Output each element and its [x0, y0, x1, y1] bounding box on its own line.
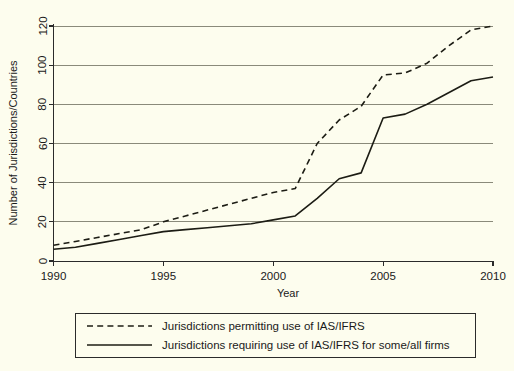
- y-tick-label: 40: [37, 176, 49, 189]
- y-tick-label: 100: [37, 56, 49, 75]
- y-tick-label: 0: [37, 258, 49, 264]
- x-tick-label: 2005: [370, 270, 396, 282]
- x-tick-label: 1990: [41, 270, 67, 282]
- x-tick-label: 1995: [151, 270, 177, 282]
- chart-figure: 020406080100120 19901995200020052010 Yea…: [0, 0, 514, 371]
- x-tick-label: 2010: [480, 270, 506, 282]
- legend-label-permitting: Jurisdictions permitting use of IAS/IFRS: [162, 320, 365, 332]
- x-axis-title: Year: [277, 287, 300, 299]
- y-tick-label: 120: [37, 16, 49, 35]
- y-tick-label: 80: [37, 98, 49, 111]
- x-tick-label: 2000: [260, 270, 286, 282]
- y-tick-label: 20: [37, 215, 49, 228]
- legend-label-requiring: Jurisdictions requiring use of IAS/IFRS …: [162, 339, 450, 351]
- line-chart: 020406080100120 19901995200020052010 Yea…: [0, 0, 514, 371]
- y-tick-label: 60: [37, 137, 49, 150]
- y-axis-title: Number of Jurisdictions/Countries: [7, 60, 19, 226]
